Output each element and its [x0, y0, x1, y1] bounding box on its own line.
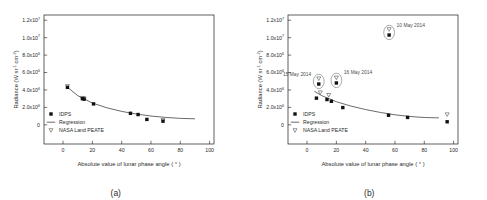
data-point-idps [387, 33, 390, 36]
legend-symbol-peate [49, 129, 53, 133]
data-point-idps [66, 86, 69, 89]
x-tick-label: 60 [392, 147, 398, 153]
annotation-circle [313, 74, 324, 88]
data-point-idps [334, 81, 337, 84]
y-tick-label: 4.0x106 [266, 87, 284, 93]
data-point-peate [334, 76, 338, 80]
data-point-idps [445, 120, 448, 123]
data-point-idps [136, 113, 139, 116]
y-tick-label: 2.0x106 [22, 104, 40, 110]
y-tick-label: 1.2x107 [22, 17, 40, 23]
y-tick-label: 6.0x106 [22, 69, 40, 75]
x-axis-title: Absolute value of lunar phase angle ( ° … [321, 161, 424, 167]
y-tick-label: 6.0x106 [266, 69, 284, 75]
x-tick-label: 20 [333, 147, 339, 153]
y-tick-label: 0 [37, 122, 40, 128]
x-tick-label: 60 [148, 147, 154, 153]
data-point-peate [316, 77, 320, 81]
data-point-idps [325, 98, 328, 101]
data-point-idps [129, 112, 132, 115]
annotation-label: 15 May 2014 [282, 72, 311, 77]
y-tick-label: 1.0x107 [266, 34, 284, 40]
x-tick-label: 0 [305, 147, 308, 153]
x-tick-label: 100 [205, 147, 214, 153]
x-tick-label: 40 [119, 147, 125, 153]
x-axis-title: Absolute value of lunar phase angle ( ° … [77, 161, 180, 167]
y-axis-title: Radiance (W sr-1 cm-2) [255, 50, 262, 108]
data-point-idps [386, 114, 389, 117]
y-tick-label: 8.0x106 [266, 52, 284, 58]
legend-label: IDPS [303, 111, 316, 117]
annotation-label: 16 May 2014 [343, 70, 372, 75]
panel-b-plot: 02040608010002.0x1064.0x1066.0x1068.0x10… [244, 0, 487, 200]
regression-curve [314, 91, 439, 118]
y-tick-label: 2.0x106 [266, 104, 284, 110]
annotation-circle [330, 73, 341, 87]
data-point-idps [145, 118, 148, 121]
y-tick-label: 4.0x106 [22, 87, 40, 93]
x-tick-label: 0 [62, 147, 65, 153]
y-tick-label: 1.0x107 [22, 34, 40, 40]
legend-label: IDPS [59, 111, 72, 117]
data-point-peate [387, 28, 391, 32]
x-tick-label: 80 [421, 147, 427, 153]
y-axis-title: Radiance (W sr-1 cm-2) [12, 50, 19, 108]
x-tick-label: 100 [449, 147, 458, 153]
panel-a-plot: 02040608010002.0x1064.0x1066.0x1068.0x10… [0, 0, 244, 200]
panel-b-caption: (b) [248, 188, 487, 198]
x-tick-label: 80 [177, 147, 183, 153]
data-point-idps [161, 119, 164, 122]
y-tick-label: 8.0x106 [22, 52, 40, 58]
x-tick-label: 20 [89, 147, 95, 153]
legend-label: NASA Land PEATE [303, 127, 348, 133]
data-point-peate [326, 93, 330, 97]
annotation-label: 10 May 2014 [396, 23, 425, 28]
legend-symbol-peate [293, 129, 297, 133]
legend-label: Regression [59, 119, 85, 125]
x-tick-label: 40 [362, 147, 368, 153]
legend-label: NASA Land PEATE [59, 127, 104, 133]
data-point-idps [92, 102, 95, 105]
panel-a: 02040608010002.0x1064.0x1066.0x1068.0x10… [0, 0, 244, 200]
legend-symbol-idps [49, 112, 52, 115]
data-point-idps [314, 96, 317, 99]
figure-two-panel: 02040608010002.0x1064.0x1066.0x1068.0x10… [0, 0, 487, 200]
data-point-idps [82, 97, 85, 100]
panel-b: 02040608010002.0x1064.0x1066.0x1068.0x10… [244, 0, 487, 200]
annotation-circle [383, 25, 394, 39]
y-tick-label: 0 [281, 122, 284, 128]
data-point-idps [329, 100, 332, 103]
data-point-idps [405, 116, 408, 119]
legend-symbol-idps [293, 112, 296, 115]
data-point-peate [445, 113, 449, 117]
data-point-idps [317, 82, 320, 85]
panel-a-caption: (a) [0, 188, 238, 198]
legend-label: Regression [303, 119, 329, 125]
y-tick-label: 1.2x107 [266, 17, 284, 23]
data-point-idps [341, 106, 344, 109]
